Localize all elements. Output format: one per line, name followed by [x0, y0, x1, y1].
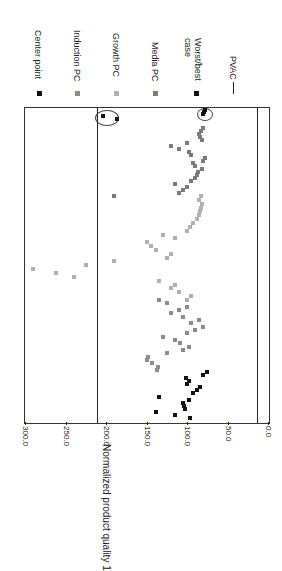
data-point — [101, 114, 105, 118]
data-point — [195, 217, 199, 221]
data-point — [185, 305, 189, 309]
data-point — [188, 225, 192, 229]
data-point — [161, 233, 165, 237]
data-point — [197, 318, 201, 322]
data-point — [169, 286, 173, 290]
data-point — [201, 325, 205, 329]
legend-media-pc: Media PC — [150, 42, 160, 82]
tick-mark — [268, 422, 269, 425]
plot-area — [24, 107, 270, 424]
tick-mark — [106, 422, 107, 425]
data-point — [198, 385, 202, 389]
data-point — [185, 229, 189, 233]
data-point — [145, 240, 149, 244]
data-point — [177, 308, 181, 312]
data-point — [193, 328, 197, 332]
data-point — [161, 335, 165, 339]
data-point — [203, 108, 207, 112]
tick-label: 0.0 — [264, 426, 273, 437]
data-point — [165, 301, 169, 305]
legend-swatch-induction-pc — [75, 91, 80, 96]
data-point — [187, 150, 191, 154]
axis-label: Normalized product quality 1 — [101, 444, 112, 571]
data-point — [185, 141, 189, 145]
data-point — [177, 147, 181, 151]
data-point — [169, 144, 173, 148]
data-point — [188, 416, 192, 420]
data-point — [177, 290, 181, 294]
data-point — [185, 331, 189, 335]
tick-mark — [25, 422, 26, 425]
pvac-upper-line — [97, 107, 98, 423]
data-point — [72, 275, 76, 279]
tick-label: 100.0 — [183, 426, 192, 446]
data-point — [199, 206, 203, 210]
tick-mark — [187, 422, 188, 425]
data-point — [200, 202, 204, 206]
pvac-lower-line — [257, 107, 258, 423]
data-point — [169, 252, 173, 256]
data-point — [169, 311, 173, 315]
data-point — [189, 321, 193, 325]
data-point — [181, 315, 185, 319]
data-point — [31, 267, 35, 271]
data-point — [191, 221, 195, 225]
data-point — [178, 341, 182, 345]
data-point — [154, 248, 158, 252]
data-point — [185, 185, 189, 189]
legend-worst-best: Worst/best case — [183, 38, 203, 81]
data-point — [112, 194, 116, 198]
data-point — [115, 117, 119, 121]
tick-label: 50.0 — [224, 426, 233, 442]
data-point — [205, 370, 209, 374]
data-point — [156, 365, 160, 369]
legend-swatch-growth-pc — [114, 91, 119, 96]
data-point — [149, 244, 153, 248]
data-point — [54, 271, 58, 275]
data-point — [150, 361, 154, 365]
data-point — [165, 351, 169, 355]
data-point — [146, 355, 150, 359]
data-point — [157, 395, 161, 399]
legend-swatch-worst-best — [194, 91, 199, 96]
tick-label: 300.0 — [21, 426, 30, 446]
data-point — [181, 401, 185, 405]
legend-growth-pc: Growth PC — [111, 33, 121, 77]
data-point — [157, 279, 161, 283]
tick-mark — [228, 422, 229, 425]
tick-mark — [147, 422, 148, 425]
data-point — [173, 413, 177, 417]
data-point — [157, 298, 161, 302]
data-point — [198, 209, 202, 213]
data-point — [181, 348, 185, 352]
data-point — [112, 259, 116, 263]
data-point — [165, 256, 169, 260]
data-point — [154, 410, 158, 414]
data-point — [203, 156, 207, 160]
data-point — [185, 298, 189, 302]
legend-swatch-center-point — [37, 91, 42, 96]
data-point — [187, 398, 191, 402]
data-point — [201, 126, 205, 130]
legend-center-point: Center point — [33, 30, 43, 79]
legend-pvac: PVAC — [228, 56, 238, 80]
data-point — [191, 161, 195, 165]
tick-mark — [66, 422, 67, 425]
legend-induction-pc: Induction PC — [72, 30, 82, 82]
data-point — [197, 213, 201, 217]
data-point — [173, 182, 177, 186]
data-point — [173, 236, 177, 240]
data-point — [173, 338, 177, 342]
legend-pvac-line — [233, 82, 234, 94]
legend-swatch-media-pc — [153, 91, 158, 96]
data-point — [200, 167, 204, 171]
data-point — [173, 283, 177, 287]
data-point — [84, 263, 88, 267]
tick-label: 150.0 — [143, 426, 152, 446]
data-point — [189, 294, 193, 298]
tick-label: 250.0 — [62, 426, 71, 446]
data-point — [184, 376, 188, 380]
data-point — [197, 198, 201, 202]
data-point — [199, 194, 203, 198]
